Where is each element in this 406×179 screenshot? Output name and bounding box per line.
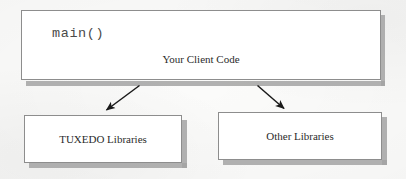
main-function-label: main(): [52, 26, 104, 41]
other-libraries-box: Other Libraries: [218, 112, 382, 160]
client-code-box-shadow-bottom: [26, 81, 385, 86]
tuxedo-libraries-box-shadow-right: [182, 120, 187, 168]
connector-client-to-tuxedo: [107, 86, 140, 111]
other-libraries-box-shadow-right: [382, 117, 387, 165]
tuxedo-libraries-label: TUXEDO Libraries: [25, 133, 181, 145]
diagram-canvas: main() Your Client Code TUXEDO Libraries…: [0, 0, 406, 179]
other-libraries-box-shadow-bottom: [223, 160, 387, 165]
client-code-box-shadow-right: [381, 15, 385, 86]
other-libraries-label: Other Libraries: [219, 130, 381, 142]
tuxedo-libraries-box: TUXEDO Libraries: [24, 115, 182, 163]
connector-client-to-other: [258, 86, 285, 109]
tuxedo-libraries-box-shadow-bottom: [29, 163, 187, 168]
client-code-label: Your Client Code: [22, 53, 380, 65]
client-code-box: main() Your Client Code: [21, 10, 381, 80]
